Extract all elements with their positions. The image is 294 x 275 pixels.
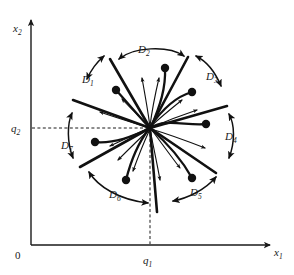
x-axis-label: x1 bbox=[273, 246, 283, 261]
sector-label-D1: D1 bbox=[81, 73, 94, 88]
flow-arrow-4 bbox=[151, 129, 205, 148]
separatrix-ray-5 bbox=[150, 128, 157, 212]
axis-labels-group: x2 x1 0 q1 q2 bbox=[11, 22, 283, 269]
q1-tick-label: q1 bbox=[143, 254, 152, 269]
trajectory-dot-2 bbox=[112, 86, 120, 94]
sector-label-D7: D7 bbox=[60, 139, 73, 154]
sector-label-D3: D3 bbox=[205, 70, 218, 85]
trajectory-dot-3 bbox=[188, 88, 196, 96]
separatrix-ray-4 bbox=[150, 128, 216, 173]
sector-arc-arrow-D2 bbox=[119, 49, 184, 59]
flow-arrow-5 bbox=[151, 129, 180, 168]
origin-label: 0 bbox=[15, 249, 21, 261]
phase-portrait-figure: x2 x1 0 q1 q2 bbox=[0, 0, 294, 275]
sector-label-D6: D6 bbox=[108, 188, 121, 203]
trajectory-curve-1 bbox=[151, 68, 165, 127]
sector-label-D2: D2 bbox=[137, 43, 150, 58]
trajectory-dot-5 bbox=[91, 138, 99, 146]
diagram-canvas: x2 x1 0 q1 q2 bbox=[0, 0, 294, 275]
trajectory-dot-6 bbox=[122, 176, 130, 184]
trajectory-dot-4 bbox=[202, 120, 210, 128]
sector-label-D5: D5 bbox=[189, 186, 202, 201]
trajectory-curve-4 bbox=[150, 123, 206, 128]
q2-tick-label: q2 bbox=[11, 122, 21, 137]
trajectory-dot-7 bbox=[188, 174, 196, 182]
sector-label-D4: D4 bbox=[224, 130, 237, 145]
trajectory-dot-1 bbox=[161, 64, 169, 72]
y-axis-label: x2 bbox=[12, 22, 22, 37]
